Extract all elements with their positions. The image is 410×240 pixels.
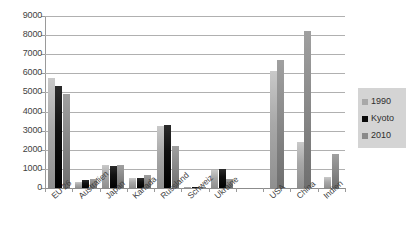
x-tick-mark (181, 188, 182, 192)
gridline (45, 35, 345, 36)
gridline (45, 16, 345, 17)
legend-item[interactable]: 2010 (362, 127, 406, 144)
x-tick-mark (100, 188, 101, 192)
x-tick-mark (154, 188, 155, 192)
y-tick-label: 6000 (2, 68, 42, 77)
bar-usa-1990 (270, 71, 277, 188)
legend-item-label: 1990 (371, 97, 391, 106)
y-tick-label: 4000 (2, 107, 42, 116)
y-tick-label: 9000 (2, 11, 42, 20)
x-tick-mark (318, 188, 319, 192)
bar-eu-26-1990 (48, 78, 55, 188)
x-tick-mark (263, 188, 264, 192)
y-tick-label: 3000 (2, 126, 42, 135)
gridline (45, 92, 345, 93)
x-tick-mark (345, 188, 346, 192)
gridline (45, 54, 345, 55)
bar-usa-2010 (277, 60, 284, 188)
y-tick-label: 5000 (2, 87, 42, 96)
x-tick-mark (72, 188, 73, 192)
bar-australien-1990 (75, 182, 82, 188)
series-2010-swatch (362, 133, 368, 139)
bar-russland-1990 (157, 126, 164, 188)
bar-eu-26-kyoto (55, 86, 62, 188)
legend-item[interactable]: 1990 (362, 93, 406, 110)
x-tick-mark (127, 188, 128, 192)
bar-russland-kyoto (164, 125, 171, 188)
legend-item-label: Kyoto (371, 114, 394, 123)
x-tick-mark (209, 188, 210, 192)
x-tick-mark (236, 188, 237, 192)
chart-legend: 1990 Kyoto 2010 (358, 88, 406, 148)
series-kyoto-swatch (362, 116, 368, 122)
gridline (45, 131, 345, 132)
y-tick-label: 1000 (2, 164, 42, 173)
legend-item[interactable]: Kyoto (362, 110, 406, 127)
gridline (45, 73, 345, 74)
y-tick-label: 2000 (2, 145, 42, 154)
bar-kanada-1990 (129, 178, 136, 188)
bar-eu-26-2010 (63, 94, 70, 188)
x-tick-mark (45, 188, 46, 192)
bar-china-2010 (304, 31, 311, 188)
y-tick-label: 0 (2, 183, 42, 192)
bar-china-1990 (297, 142, 304, 188)
bar-chart: 0100020003000400050006000700080009000 EU… (0, 0, 410, 240)
y-tick-label: 7000 (2, 49, 42, 58)
y-tick-label: 8000 (2, 30, 42, 39)
legend-item-label: 2010 (371, 131, 391, 140)
y-axis-line (45, 16, 46, 189)
series-1990-swatch (362, 99, 368, 105)
gridline (45, 112, 345, 113)
x-tick-mark (290, 188, 291, 192)
